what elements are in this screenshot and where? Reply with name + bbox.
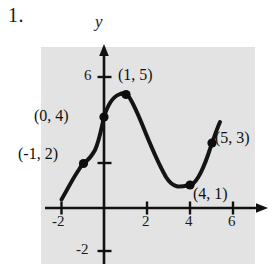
- function-curve: [62, 93, 221, 199]
- point-label-1-5: (1, 5): [118, 66, 153, 84]
- data-point-0-4: [99, 112, 108, 121]
- x-tick-label-4: 4: [185, 213, 193, 230]
- y-tick-label-neg2: -2: [76, 241, 89, 258]
- point-label-0-4: (0, 4): [34, 107, 69, 125]
- x-tick-label-neg2: -2: [52, 213, 65, 230]
- point-label-5-3: (5, 3): [215, 129, 250, 147]
- x-tick-label-6: 6: [228, 213, 236, 230]
- y-axis-arrow-icon: [99, 44, 109, 56]
- point-label-4-1: (4, 1): [193, 185, 228, 203]
- y-tick-label-6: 6: [84, 67, 92, 84]
- figure-container: 1. y -2 2 4 6 6 -2 (-1, 2) (0, 4) (: [0, 0, 277, 264]
- y-axis-label: y: [95, 12, 103, 32]
- data-point-1-5: [121, 90, 130, 99]
- point-label-neg1-2: (-1, 2): [18, 145, 58, 163]
- data-point-neg1-2: [79, 159, 88, 168]
- x-axis-arrow-icon: [256, 203, 268, 213]
- x-tick-label-2: 2: [142, 213, 150, 230]
